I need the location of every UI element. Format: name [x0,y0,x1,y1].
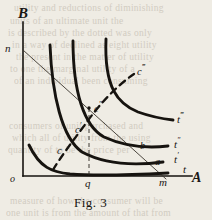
origin-label: o [10,174,15,184]
axes-group [23,22,192,176]
indifference-curve-t-tprime [106,39,173,120]
prime-mark-double-t: ″ [177,136,180,145]
curve-label-t-tprime: t‴ [177,112,183,125]
label-q: q [85,178,91,189]
curve-label-t: t [183,164,186,175]
axis-label-b: B [18,6,28,21]
prime-mark-single: ′ [80,121,81,130]
figure-container: utility and reductions of diminishinguni… [0,0,212,220]
indifference-curve-t-dprime [73,41,168,147]
prime-mark-double: ″ [99,100,102,109]
label-point-c-tprime: c‴ [137,64,144,77]
point-markers-group [87,106,90,109]
label-m: m [159,177,167,188]
prime-mark-triple-t: ‴ [180,111,183,120]
marker-point-c-dprime [87,106,90,109]
curve-label-t-dprime: t″ [174,137,180,150]
prime-mark-triple: ‴ [142,63,145,72]
prime-mark-single-t: ′ [177,151,178,160]
label-point-b: b [140,141,145,152]
figure-caption: Fig. 3 [74,195,107,211]
label-n: n [5,43,11,54]
label-point-c: c [57,146,62,157]
figure-svg [0,0,212,220]
label-point-a: a [155,157,160,168]
axis-label-a: A [192,171,201,185]
label-point-c-dprime: c″ [94,101,101,114]
label-point-c-prime: c′ [75,122,81,135]
curve-label-t-prime: t′ [174,152,178,165]
